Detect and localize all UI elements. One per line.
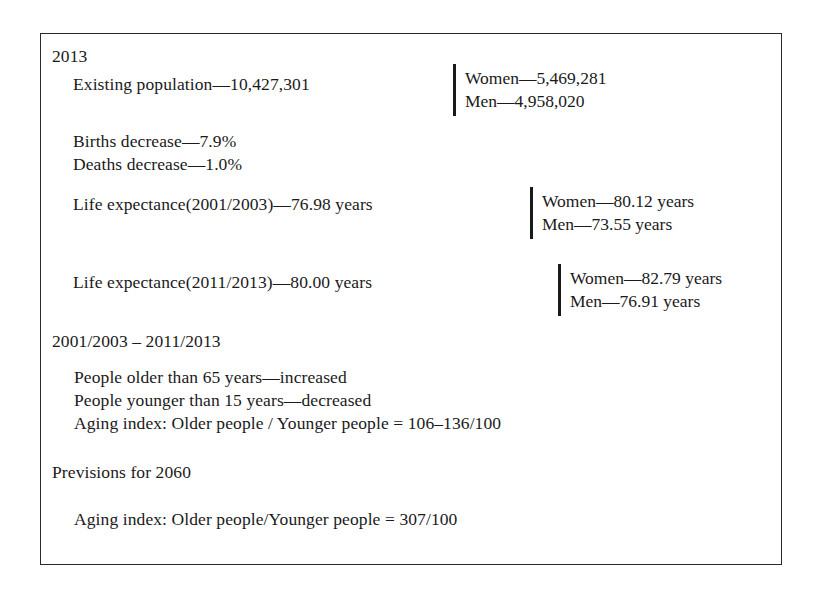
- figure-content: 2013 Existing population—10,427,301 Wome…: [41, 34, 781, 564]
- life-expectance-2011-2013-line: Life expectance(2011/2013)—80.00 years: [73, 272, 372, 293]
- existing-population-line: Existing population—10,427,301: [73, 74, 310, 95]
- previsions-2060-heading: Previsions for 2060: [52, 462, 191, 483]
- population-gender-breakdown: Women—5,469,281 Men—4,958,020: [453, 64, 607, 116]
- aging-index-2060-line: Aging index: Older people/Younger people…: [74, 509, 457, 530]
- brace-rule-life-expectance-2011-2013: [558, 264, 561, 316]
- life-expectance-2001-2003-men-line: Men—73.55 years: [542, 213, 694, 236]
- population-breakdown-lines: Women—5,469,281 Men—4,958,020: [465, 64, 607, 116]
- life-expectance-2001-2003-women-line: Women—80.12 years: [542, 190, 694, 213]
- life-expectance-2011-2013-gender-breakdown: Women—82.79 years Men—76.91 years: [558, 264, 722, 316]
- deaths-decrease-line: Deaths decrease—1.0%: [73, 154, 242, 175]
- brace-rule-population: [453, 64, 456, 116]
- period-comparison-heading: 2001/2003 – 2011/2013: [52, 331, 221, 352]
- statistics-figure-box: 2013 Existing population—10,427,301 Wome…: [40, 33, 782, 565]
- population-men-line: Men—4,958,020: [465, 90, 607, 113]
- life-expectance-2001-2003-lines: Women—80.12 years Men—73.55 years: [542, 187, 694, 239]
- population-women-line: Women—5,469,281: [465, 67, 607, 90]
- births-decrease-line: Births decrease—7.9%: [73, 131, 236, 152]
- life-expectance-2011-2013-men-line: Men—76.91 years: [570, 290, 722, 313]
- brace-rule-life-expectance-2001-2003: [530, 187, 533, 239]
- life-expectance-2011-2013-women-line: Women—82.79 years: [570, 267, 722, 290]
- year-2013-heading: 2013: [52, 46, 87, 67]
- people-younger-than-15-line: People younger than 15 years—decreased: [74, 390, 371, 411]
- life-expectance-2011-2013-lines: Women—82.79 years Men—76.91 years: [570, 264, 722, 316]
- life-expectance-2001-2003-gender-breakdown: Women—80.12 years Men—73.55 years: [530, 187, 694, 239]
- life-expectance-2001-2003-line: Life expectance(2001/2003)—76.98 years: [73, 194, 373, 215]
- people-older-than-65-line: People older than 65 years—increased: [74, 367, 347, 388]
- aging-index-period-line: Aging index: Older people / Younger peop…: [74, 413, 501, 434]
